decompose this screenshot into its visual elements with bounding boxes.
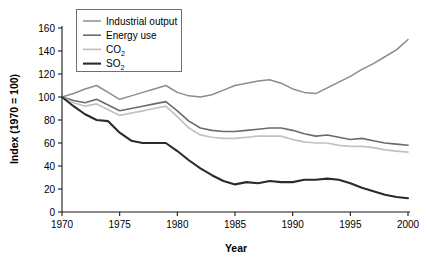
x-tick-label: 1980: [166, 219, 189, 230]
x-tick-label: 1995: [339, 219, 362, 230]
legend-label-2: Energy use: [106, 30, 157, 41]
x-tick-label: 1990: [282, 219, 305, 230]
x-tick-label: 1975: [109, 219, 132, 230]
y-axis-label: Index (1970 = 100): [8, 74, 20, 164]
x-axis-ticks: 1970197519801985199019952000: [51, 212, 420, 230]
legend-label-1: Industrial output: [106, 16, 177, 27]
y-tick-label: 20: [44, 184, 56, 195]
chart-legend: Industrial outputEnergy useCO2SO2: [77, 10, 182, 72]
line-chart: 020406080100120140160 197019751980198519…: [0, 0, 427, 260]
chart-figure: 020406080100120140160 197019751980198519…: [0, 0, 427, 260]
series-line-co2: [62, 97, 408, 152]
y-tick-label: 120: [38, 69, 55, 80]
x-tick-label: 2000: [397, 219, 420, 230]
x-axis-label: Year: [225, 242, 247, 254]
x-tick-label: 1985: [224, 219, 247, 230]
y-tick-label: 100: [38, 92, 55, 103]
y-tick-label: 160: [38, 23, 55, 34]
y-tick-label: 80: [44, 115, 56, 126]
y-axis-ticks: 020406080100120140160: [38, 23, 62, 218]
y-tick-label: 40: [44, 161, 56, 172]
y-tick-label: 140: [38, 46, 55, 57]
y-tick-label: 0: [49, 207, 55, 218]
y-tick-label: 60: [44, 138, 56, 149]
x-tick-label: 1970: [51, 219, 74, 230]
